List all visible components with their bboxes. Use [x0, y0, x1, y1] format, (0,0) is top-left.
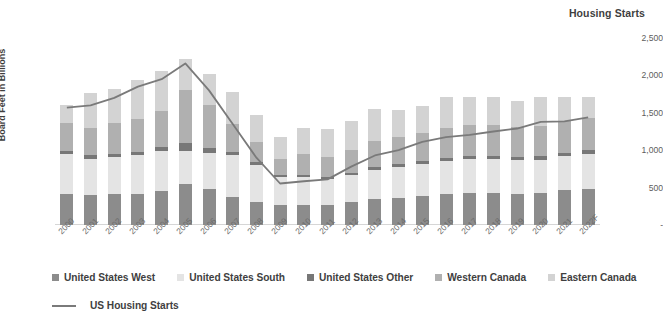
stacked-bar[interactable]: [60, 105, 73, 225]
bar-segment[interactable]: [108, 89, 121, 123]
bar-segment[interactable]: [558, 97, 571, 121]
bar-segment[interactable]: [463, 159, 476, 193]
bar-slot[interactable]: [221, 38, 245, 225]
bar-slot[interactable]: [411, 38, 435, 225]
stacked-bar[interactable]: [226, 92, 239, 225]
bar-segment[interactable]: [582, 97, 595, 118]
bar-segment[interactable]: [274, 137, 287, 159]
bar-segment[interactable]: [368, 109, 381, 141]
stacked-bar[interactable]: [131, 80, 144, 225]
bar-slot[interactable]: [387, 38, 411, 225]
bar-segment[interactable]: [60, 105, 73, 123]
stacked-bar[interactable]: [203, 74, 216, 225]
bar-segment[interactable]: [487, 97, 500, 125]
bar-segment[interactable]: [582, 154, 595, 188]
bar-slot[interactable]: [505, 38, 529, 225]
bar-segment[interactable]: [345, 150, 358, 173]
stacked-bar[interactable]: [274, 137, 287, 225]
bar-segment[interactable]: [297, 154, 310, 175]
stacked-bar[interactable]: [345, 121, 358, 225]
bar-slot[interactable]: [458, 38, 482, 225]
bar-slot[interactable]: [576, 38, 600, 225]
bar-segment[interactable]: [487, 125, 500, 156]
bar-segment[interactable]: [179, 143, 192, 151]
bar-slot[interactable]: [245, 38, 269, 225]
bar-segment[interactable]: [60, 123, 73, 151]
stacked-bar[interactable]: [155, 71, 168, 225]
bar-segment[interactable]: [250, 165, 263, 202]
bar-slot[interactable]: [363, 38, 387, 225]
bar-segment[interactable]: [558, 121, 571, 153]
bar-segment[interactable]: [511, 127, 524, 157]
bar-segment[interactable]: [155, 71, 168, 112]
bar-slot[interactable]: [174, 38, 198, 225]
bar-segment[interactable]: [60, 154, 73, 193]
bar-segment[interactable]: [321, 129, 334, 157]
bar-segment[interactable]: [392, 137, 405, 164]
bar-slot[interactable]: [553, 38, 577, 225]
bar-segment[interactable]: [321, 157, 334, 177]
bar-segment[interactable]: [440, 128, 453, 158]
bar-slot[interactable]: [197, 38, 221, 225]
bar-slot[interactable]: [482, 38, 506, 225]
bar-segment[interactable]: [274, 159, 287, 176]
legend-item-united-states-south[interactable]: United States South: [177, 272, 285, 283]
bar-segment[interactable]: [179, 151, 192, 184]
stacked-bar[interactable]: [582, 97, 595, 225]
legend-item-western-canada[interactable]: Western Canada: [435, 272, 526, 283]
legend-item-united-states-other[interactable]: United States Other: [307, 272, 413, 283]
stacked-bar[interactable]: [321, 129, 334, 225]
stacked-bar[interactable]: [440, 97, 453, 225]
bar-segment[interactable]: [534, 126, 547, 157]
stacked-bar[interactable]: [84, 93, 97, 225]
bar-segment[interactable]: [582, 118, 595, 150]
stacked-bar[interactable]: [368, 109, 381, 225]
bar-segment[interactable]: [392, 167, 405, 198]
stacked-bar[interactable]: [108, 89, 121, 225]
bar-slot[interactable]: [316, 38, 340, 225]
bar-slot[interactable]: [434, 38, 458, 225]
bar-slot[interactable]: [55, 38, 79, 225]
bar-segment[interactable]: [250, 115, 263, 142]
bar-segment[interactable]: [179, 90, 192, 143]
bar-segment[interactable]: [416, 133, 429, 161]
legend-item-us-housing-starts[interactable]: US Housing Starts: [52, 300, 179, 311]
bar-segment[interactable]: [131, 155, 144, 193]
bar-segment[interactable]: [84, 159, 97, 195]
stacked-bar[interactable]: [487, 97, 500, 225]
bar-segment[interactable]: [84, 128, 97, 155]
bar-segment[interactable]: [511, 160, 524, 194]
bar-segment[interactable]: [131, 80, 144, 118]
bar-segment[interactable]: [511, 101, 524, 127]
legend-item-united-states-west[interactable]: United States West: [52, 272, 155, 283]
bar-slot[interactable]: [126, 38, 150, 225]
bar-segment[interactable]: [274, 177, 287, 205]
bar-slot[interactable]: [529, 38, 553, 225]
bar-segment[interactable]: [297, 128, 310, 154]
bar-segment[interactable]: [321, 179, 334, 205]
bar-segment[interactable]: [108, 123, 121, 153]
bar-segment[interactable]: [345, 121, 358, 150]
stacked-bar[interactable]: [179, 59, 192, 225]
bar-segment[interactable]: [203, 105, 216, 149]
bar-segment[interactable]: [108, 157, 121, 194]
bar-segment[interactable]: [487, 159, 500, 193]
stacked-bar[interactable]: [392, 110, 405, 225]
bar-segment[interactable]: [226, 92, 239, 124]
bar-segment[interactable]: [345, 175, 358, 202]
bar-segment[interactable]: [416, 164, 429, 196]
bar-segment[interactable]: [226, 155, 239, 197]
legend-item-eastern-canada[interactable]: Eastern Canada: [548, 272, 636, 283]
stacked-bar[interactable]: [534, 97, 547, 225]
bar-segment[interactable]: [297, 177, 310, 205]
stacked-bar[interactable]: [297, 128, 310, 225]
bar-segment[interactable]: [368, 141, 381, 167]
bar-segment[interactable]: [179, 59, 192, 90]
bar-segment[interactable]: [463, 125, 476, 156]
bar-segment[interactable]: [84, 93, 97, 128]
bar-slot[interactable]: [339, 38, 363, 225]
bar-segment[interactable]: [416, 106, 429, 133]
bar-slot[interactable]: [150, 38, 174, 225]
bar-segment[interactable]: [250, 142, 263, 163]
stacked-bar[interactable]: [463, 97, 476, 225]
